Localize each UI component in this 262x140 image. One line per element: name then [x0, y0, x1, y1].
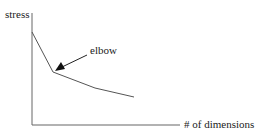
- arrowhead-icon: [55, 62, 65, 71]
- elbow-annotation-label: elbow: [90, 45, 117, 56]
- x-axis-label: # of dimensions: [184, 119, 254, 130]
- y-axis-label: stress: [5, 9, 29, 20]
- stress-curve: [32, 32, 134, 97]
- annotation-arrow-shaft: [62, 55, 87, 67]
